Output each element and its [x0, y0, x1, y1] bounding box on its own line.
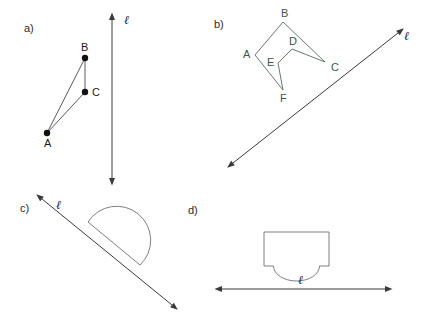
- notched-rectangle: [264, 232, 329, 281]
- vertex-label-c: C: [92, 86, 100, 98]
- half-disk-outline: [88, 206, 151, 265]
- hexagon-abcdef: A B C D E F: [243, 7, 339, 104]
- figure-root: a) ℓ A B C b) ℓ A B C D: [0, 0, 422, 327]
- vertex-label-c: C: [331, 61, 339, 73]
- geometry-figure-canvas: a) ℓ A B C b) ℓ A B C D: [0, 0, 422, 327]
- line-ell-b-label: ℓ: [404, 29, 409, 43]
- triangle-abc-outline: [47, 58, 85, 133]
- vertex-dot-b: [82, 55, 88, 61]
- triangle-abc: A B C: [44, 41, 100, 149]
- notched-rectangle-outline: [264, 232, 329, 281]
- line-ell-d-label: ℓ: [298, 273, 303, 287]
- vertex-dot-a: [44, 130, 50, 136]
- hexagon-abcdef-outline: [255, 22, 325, 90]
- panel-c: c) ℓ: [20, 198, 172, 305]
- panel-a-label: a): [24, 22, 34, 34]
- vertex-label-a: A: [243, 48, 251, 60]
- vertex-label-f: F: [280, 92, 287, 104]
- panel-d-label: d): [188, 204, 198, 216]
- panel-a: a) ℓ A B C: [24, 13, 129, 178]
- vertex-label-b: B: [81, 41, 88, 53]
- vertex-dot-c: [82, 89, 88, 95]
- half-disk: [88, 206, 151, 265]
- vertex-label-a: A: [44, 137, 52, 149]
- line-ell-a-label: ℓ: [124, 13, 129, 27]
- panel-b-label: b): [214, 18, 224, 30]
- panel-b: b) ℓ A B C D E F: [214, 7, 409, 163]
- line-ell-c-label: ℓ: [56, 198, 61, 212]
- panel-c-label: c): [20, 202, 29, 214]
- vertex-label-b: B: [281, 7, 288, 19]
- line-ell-c: [42, 199, 172, 305]
- vertex-label-e: E: [267, 56, 274, 68]
- vertex-label-d: D: [289, 35, 297, 47]
- panel-d: d) ℓ: [188, 204, 385, 289]
